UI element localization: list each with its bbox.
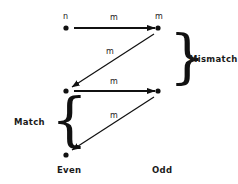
match-brace-icon: { [51,91,88,149]
match-group-label: Match [14,118,45,127]
edge-label-lower-diagonal: m [110,112,118,120]
column-label-odd: Odd [152,166,172,175]
diagram-canvas: n m m m m m } Mismatch { Match Even Odd [0,0,238,184]
edge-label-top-horizontal: m [110,14,118,22]
column-label-even: Even [57,166,81,175]
node-middle-right[interactable] [155,88,160,93]
edge-label-upper-diagonal: m [106,48,114,56]
mismatch-group-label: Mismatch [189,55,238,64]
edge-label-middle-horizontal: m [110,78,118,86]
node-top-right[interactable] [155,25,160,30]
node-label-m: m [155,13,163,21]
node-top-left[interactable] [63,25,68,30]
node-label-n: n [63,13,68,21]
